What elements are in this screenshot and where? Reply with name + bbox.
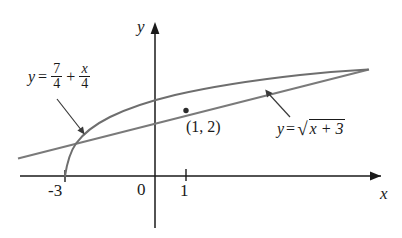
- fraction-denominator: 4: [79, 76, 90, 91]
- curve-equation-label: y = √ x + 3: [277, 119, 345, 138]
- line-equation-label: y = 7 4 + x 4: [28, 62, 91, 92]
- fraction-x-over-four: x 4: [79, 62, 90, 92]
- line-equation-equals: =: [38, 68, 47, 86]
- x-axis-label: x: [380, 184, 388, 204]
- line-equation-leader-arrowhead: [77, 126, 84, 134]
- fraction-numerator: 7: [51, 62, 62, 76]
- fraction-denominator: 4: [51, 76, 62, 91]
- point-label: (1, 2): [186, 118, 221, 136]
- tick-label-one: 1: [180, 181, 189, 201]
- curve-equation-leader: [268, 93, 290, 117]
- fraction-seven-fourths: 7 4: [51, 62, 62, 92]
- y-axis-arrowhead: [151, 22, 160, 34]
- radicand-expression: x + 3: [309, 119, 346, 138]
- tangency-point-dot: [183, 108, 188, 113]
- fraction-numerator: x: [80, 62, 90, 76]
- line-equation-plus: +: [66, 68, 75, 86]
- x-axis-arrowhead: [370, 172, 381, 181]
- curve-equation-lhs: y: [277, 120, 284, 138]
- y-axis-label: y: [137, 17, 145, 37]
- curve-equation-equals: =: [286, 120, 295, 138]
- graph-figure: y x -3 0 1 (1, 2) y = 7 4 + x 4 y = √ x …: [0, 0, 402, 238]
- origin-label: 0: [137, 180, 146, 200]
- tick-label-neg3: -3: [48, 181, 62, 201]
- radical-icon: √: [297, 119, 307, 138]
- line-equation-leader: [57, 99, 82, 131]
- line-equation-lhs: y: [28, 68, 35, 86]
